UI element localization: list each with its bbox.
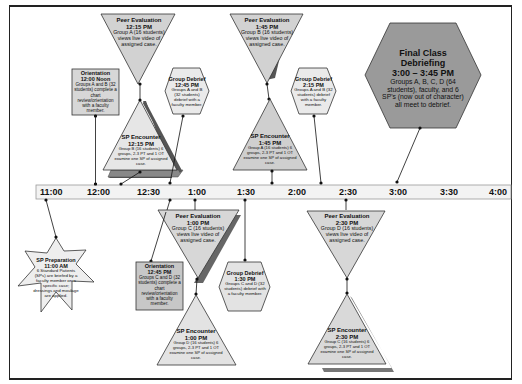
connector	[267, 84, 269, 99]
sp-preparation: SP Preparation 11:00 AM 6 Standard Patie…	[33, 257, 79, 299]
event-title: Peer Evaluation	[313, 213, 381, 220]
peer-eval-145: Peer Evaluation 1:45 PM Group B (16 stud…	[234, 17, 300, 48]
tick-label: 3:30	[440, 187, 458, 197]
event-title: SP Encounter	[242, 133, 298, 140]
event-body: Group A (16 students) 6 groups, 2-3 PT a…	[242, 146, 298, 165]
event-title: SP Encounter	[319, 327, 375, 334]
sp-encounter-100: SP Encounter 1:00 PM Group D (16 student…	[168, 328, 224, 360]
tick-label: 2:30	[339, 187, 357, 197]
group-debrief-1245: Group Debrief 12:45 PM Groups A and B (3…	[168, 76, 206, 108]
event-body: Groups C and D (32 students) debrief wit…	[224, 282, 266, 297]
event-body: Groups A and B (32 students) debrief wit…	[168, 88, 206, 108]
sp-encounter-1215: SP Encounter 12:15 PM Group B (16 studen…	[113, 134, 169, 166]
event-time: 3:00 – 3:45 PM	[380, 68, 466, 78]
event-title: SP Encounter	[168, 328, 224, 335]
event-body: Group D (16 students) views live video o…	[313, 226, 381, 244]
sp-encounter-230: SP Encounter 2:30 PM Group C (16 student…	[319, 327, 375, 359]
group-debrief-130: Group Debrief 1:30 PM Groups C and D (32…	[224, 270, 266, 297]
event-title: SP Encounter	[113, 134, 169, 141]
event-body: 6 Standard Patients (SPs) are briefed by…	[33, 269, 79, 299]
peer-eval-100: Peer Evaluation 1:00 PM Group C (16 stud…	[163, 213, 233, 244]
tick-label: 2:00	[288, 187, 306, 197]
event-title: Final Class Debriefing	[380, 48, 466, 68]
tick-label: 1:00	[188, 187, 206, 197]
tick-label: 1:30	[237, 187, 255, 197]
tick-label: 12:00	[87, 187, 110, 197]
event-title: Peer Evaluation	[106, 17, 172, 24]
event-body: Group C (16 students) 6 groups, 2-3 PT a…	[319, 340, 375, 359]
orientation-1200: Orientation 12:00 Noon Groups A and B (3…	[73, 70, 118, 113]
event-body: Groups A, B, C, D (64 students), faculty…	[380, 78, 466, 108]
final-debrief: Final Class Debriefing 3:00 – 3:45 PM Gr…	[380, 48, 466, 109]
orientation-1245: Orientation 12:45 PM Groups C and D (32 …	[137, 263, 182, 306]
event-body: Group B (16 students) views live video o…	[234, 30, 300, 48]
event-body: Group B (16 students) 6 groups, 2-3 PT a…	[113, 147, 169, 166]
event-title: Peer Evaluation	[163, 213, 233, 220]
event-body: Groups A and B (32 students) complete a …	[73, 82, 118, 113]
peer-eval-230: Peer Evaluation 2:30 PM Group D (16 stud…	[313, 213, 381, 244]
group-debrief-215: Group Debrief 2:15 PM Groups A and B (32…	[294, 76, 333, 108]
tick-label: 12:30	[137, 187, 160, 197]
connector	[167, 200, 170, 210]
event-body: Groups C and D (32 students) complete a …	[137, 275, 182, 306]
connector	[46, 200, 56, 237]
peer-eval-1215: Peer Evaluation 12:15 PM Group A (16 stu…	[106, 17, 172, 48]
event-body: Group C (16 students) views live video o…	[163, 226, 233, 244]
tick-label: 3:00	[389, 187, 407, 197]
event-body: Group A (16 students) views live video o…	[106, 30, 172, 48]
event-body: Groups A and B (32 students) debrief wit…	[294, 88, 333, 108]
connector	[397, 128, 420, 182]
tick-label: 4:00	[489, 187, 507, 197]
tick-label: 11:00	[40, 187, 63, 197]
sp-encounter-145: SP Encounter 1:45 PM Group A (16 student…	[242, 133, 298, 165]
connector	[314, 116, 321, 183]
event-title: Peer Evaluation	[234, 17, 300, 24]
event-body: Group D (16 students) 6 groups, 2-3 PT a…	[168, 341, 224, 360]
